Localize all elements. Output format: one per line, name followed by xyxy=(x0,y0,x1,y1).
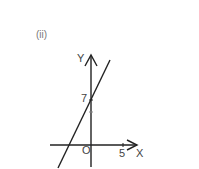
y-intercept-label: 7 xyxy=(81,93,87,104)
x-axis-label: X xyxy=(136,148,143,159)
origin-label: O xyxy=(82,145,91,156)
y-axis-label: Y xyxy=(77,53,84,64)
graph xyxy=(0,0,199,169)
x-tick-label: 5 xyxy=(119,148,125,159)
